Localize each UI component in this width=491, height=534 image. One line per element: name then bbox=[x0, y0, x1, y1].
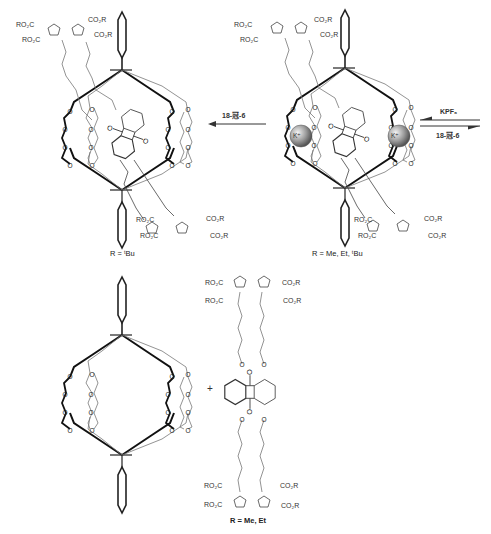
structures-drawing: OOOO OOOO OOOO OOOO OO bbox=[0, 0, 491, 534]
ester-label: CO₂R bbox=[282, 279, 300, 286]
ester-label: CO₂R bbox=[280, 482, 298, 489]
bottom-guest-axle: OO OO bbox=[225, 276, 275, 507]
ester-label: RO₂C bbox=[140, 232, 158, 239]
ester-label: CO₂R bbox=[94, 31, 112, 38]
kpf6-label: KPF₆ bbox=[440, 108, 457, 115]
left-arrow bbox=[208, 121, 266, 127]
ester-label: CO₂R bbox=[314, 16, 332, 23]
ester-label: CO₂R bbox=[206, 215, 224, 222]
top-left-pseudorotaxane bbox=[48, 12, 192, 248]
potassium-label-right: K⁺ bbox=[391, 133, 399, 140]
ester-label: RO₂C bbox=[240, 36, 258, 43]
ester-label: RO₂C bbox=[16, 21, 34, 28]
left-arrow-label: 18-冠-6 bbox=[222, 110, 245, 120]
r-group-caption-top-right: R = Me, Et, ᵗBu bbox=[312, 249, 363, 258]
svg-text:O: O bbox=[261, 416, 266, 423]
r-group-caption-bottom: R = Me, Et bbox=[230, 516, 266, 525]
equilibrium-arrows bbox=[420, 117, 480, 130]
ester-label: CO₂R bbox=[210, 232, 228, 239]
ester-label: RO₂C bbox=[204, 482, 222, 489]
ester-label: CO₂R bbox=[283, 297, 301, 304]
svg-text:O: O bbox=[261, 361, 266, 368]
ester-label: RO₂C bbox=[234, 21, 252, 28]
ester-label: CO₂R bbox=[320, 31, 338, 38]
ester-label: CO₂R bbox=[424, 215, 442, 222]
plus-sign: + bbox=[207, 383, 213, 394]
potassium-label-left: K⁺ bbox=[293, 133, 301, 140]
r-group-caption-top-left: R = ᵗBu bbox=[110, 249, 135, 258]
ester-label: RO₂C bbox=[204, 501, 222, 508]
top-right-k-complex bbox=[271, 10, 415, 246]
crown-ether-label: 18-冠-6 bbox=[436, 130, 459, 140]
ester-label: RO₂C bbox=[22, 36, 40, 43]
ester-label: RO₂C bbox=[205, 297, 223, 304]
ester-label: CO₂R bbox=[281, 502, 299, 509]
ester-label: RO₂C bbox=[205, 279, 223, 286]
svg-text:O: O bbox=[239, 416, 244, 423]
reaction-scheme: OOOO OOOO OOOO OOOO OO bbox=[0, 0, 491, 534]
ester-label: CO₂R bbox=[428, 232, 446, 239]
ester-label: RO₂C bbox=[354, 216, 372, 223]
ester-label: CO₂R bbox=[88, 16, 106, 23]
svg-text:O: O bbox=[239, 361, 244, 368]
bottom-macrocycle-host bbox=[62, 277, 192, 513]
ester-label: RO₂C bbox=[358, 232, 376, 239]
ester-label: RO₂C bbox=[136, 216, 154, 223]
